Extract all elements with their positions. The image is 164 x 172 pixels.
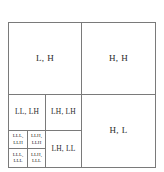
subband-llh-lll: LLH, LLL (28, 149, 46, 167)
subband-llh-llh-line2: LLH (31, 140, 42, 146)
subband-lh-ll-label: LH, LL (51, 145, 75, 153)
subband-h-l: H, L (82, 95, 155, 167)
subband-llh-lll-label: LLH, LLL (31, 152, 42, 164)
subband-lll-lll: LLL, LLL (9, 149, 28, 167)
subband-h-l-label: H, L (109, 126, 127, 136)
subband-llh-llh-label: LLH, LLH (31, 133, 42, 145)
subband-l-h-label: L, H (36, 54, 54, 64)
wavelet-decomposition-diagram: L, H H, H H, L LL, LH LH, LH LH, LL LLL, (0, 0, 164, 172)
subband-h-h-label: H, H (109, 54, 128, 64)
subband-lll-llh: LLL, LLH (9, 131, 28, 149)
subband-lll-llh-line2: LLH (13, 140, 23, 146)
subband-lh-lh: LH, LH (46, 95, 82, 131)
subband-l-h: L, H (9, 23, 82, 95)
subband-llh-llh: LLH, LLH (28, 131, 46, 149)
subband-lll-llh-label: LLL, LLH (13, 133, 23, 145)
subband-ll-lh-label: LL, LH (15, 108, 39, 116)
subband-lll-llh-line1: LLL, (13, 133, 23, 139)
subband-lh-ll: LH, LL (46, 131, 82, 167)
subband-lh-lh-label: LH, LH (51, 108, 76, 116)
subband-llh-llh-line1: LLH, (31, 133, 42, 139)
subband-h-h: H, H (82, 23, 155, 95)
decomposition-frame: L, H H, H H, L LL, LH LH, LH LH, LL LLL, (8, 22, 156, 168)
subband-lll-lll-line2: LLL (13, 158, 23, 164)
subband-ll-lh: LL, LH (9, 95, 46, 131)
subband-lll-lll-label: LLL, LLL (13, 152, 23, 164)
subband-llh-lll-line2: LLL (31, 158, 42, 164)
